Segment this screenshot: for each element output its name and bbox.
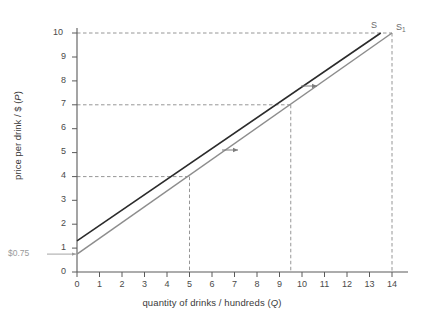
x-tick-label-2: 2 <box>113 279 131 289</box>
supply-curve-original <box>77 33 381 241</box>
x-tick-label-5: 5 <box>181 279 199 289</box>
y-axis-title: price per drink / $ (P) <box>12 51 23 221</box>
axes <box>77 28 408 272</box>
y-tick-label-9: 9 <box>46 51 66 61</box>
x-tick-label-1: 1 <box>91 279 109 289</box>
x-tick-label-9: 9 <box>271 279 289 289</box>
x-tick-label-4: 4 <box>158 279 176 289</box>
y-tick-marks <box>72 33 77 272</box>
x-tick-label-8: 8 <box>248 279 266 289</box>
y-axis-title-wrap: price per drink / $ (P) <box>0 0 22 280</box>
x-tick-label-6: 6 <box>203 279 221 289</box>
x-tick-label-3: 3 <box>136 279 154 289</box>
y-axis-title-variable: P <box>12 94 23 100</box>
x-tick-label-13: 13 <box>361 279 379 289</box>
x-axis-title: quantity of drinks / hundreds (Q) <box>0 297 424 308</box>
y-tick-label-5: 5 <box>46 146 66 156</box>
y-tick-label-4: 4 <box>46 170 66 180</box>
y-tick-label-7: 7 <box>46 98 66 108</box>
x-tick-label-12: 12 <box>338 279 356 289</box>
y-axis-title-symbol: (P) <box>12 91 23 104</box>
supply-curve-original-label: S <box>371 20 377 30</box>
x-tick-marks <box>77 272 392 277</box>
y-tick-label-1: 1 <box>46 242 66 252</box>
y-axis-title-text: price per drink / $ <box>12 106 23 179</box>
x-axis-title-text: quantity of drinks / hundreds <box>142 297 264 308</box>
y-tick-label-2: 2 <box>46 218 66 228</box>
x-axis-title-symbol: (Q) <box>267 297 281 308</box>
guide-lines <box>77 33 392 272</box>
supply-curve-shifted <box>77 33 392 254</box>
x-tick-label-0: 0 <box>68 279 86 289</box>
x-tick-label-10: 10 <box>293 279 311 289</box>
y-tick-label-8: 8 <box>46 75 66 85</box>
x-axis-title-variable: Q <box>271 297 279 308</box>
y-tick-label-6: 6 <box>46 122 66 132</box>
y-tick-label-3: 3 <box>46 194 66 204</box>
supply-original-label-text: S <box>371 20 377 30</box>
supply-curve-chart: 0 1 2 3 4 5 6 7 8 9 10 0 1 2 3 4 5 6 7 8… <box>0 0 424 320</box>
supply-shifted-label-subscript: 1 <box>402 26 406 33</box>
supply-curve-shifted-label: S1 <box>396 22 406 32</box>
y-tick-label-10: 10 <box>43 27 63 37</box>
y-tick-label-0: 0 <box>46 266 66 276</box>
x-tick-label-11: 11 <box>316 279 334 289</box>
x-tick-label-14: 14 <box>383 279 401 289</box>
x-tick-label-7: 7 <box>226 279 244 289</box>
intercept-callout-label: $0.75 <box>8 248 29 258</box>
